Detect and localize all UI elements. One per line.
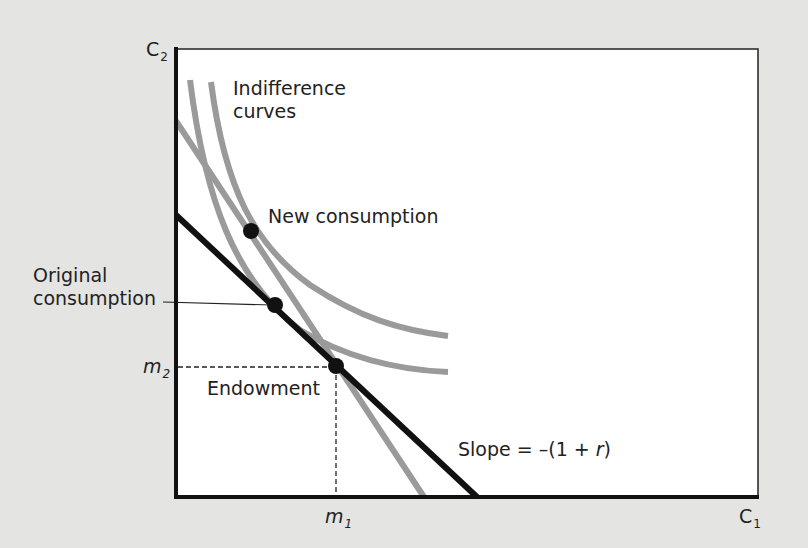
y-tick-m2: m2 xyxy=(143,355,170,381)
x-axis-label: C1 xyxy=(739,505,761,531)
endowment-point xyxy=(328,358,344,374)
x-tick-m1: m1 xyxy=(325,505,352,531)
original-consumption-label: Original consumption xyxy=(33,264,156,310)
endowment-label: Endowment xyxy=(207,377,320,400)
indifference-curves-label: Indifference curves xyxy=(233,77,346,123)
new-consumption-point xyxy=(243,223,259,239)
slope-label: Slope = –(1 + r) xyxy=(458,438,611,461)
original-consumption-point xyxy=(267,297,283,313)
y-axis-label: C2 xyxy=(146,38,168,64)
new-consumption-label: New consumption xyxy=(268,205,439,228)
